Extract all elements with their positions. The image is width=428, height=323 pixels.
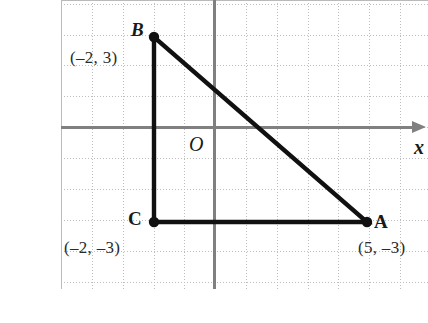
- vertex-point-a: [362, 217, 372, 227]
- vertex-label-b: B: [131, 20, 144, 39]
- vertex-point-c: [149, 217, 159, 227]
- coordinate-label-c: (–2, –3): [64, 239, 120, 256]
- triangle-shape: [0, 0, 428, 323]
- coordinate-plane-figure: B C A O x (–2, 3) (–2, –3) (5, –3): [0, 0, 428, 323]
- vertex-label-a: A: [374, 212, 388, 231]
- origin-label: O: [189, 134, 203, 154]
- coordinate-label-a: (5, –3): [358, 239, 405, 256]
- coordinate-label-b: (–2, 3): [70, 49, 117, 66]
- vertex-label-c: C: [128, 209, 142, 228]
- triangle-outline: [154, 37, 367, 222]
- vertex-point-b: [149, 32, 159, 42]
- x-axis-label: x: [414, 137, 424, 157]
